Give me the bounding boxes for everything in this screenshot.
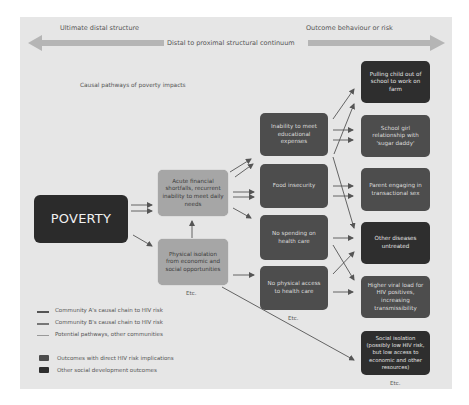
acute-financial-label: Acute financial shortfalls, recurrent in…	[162, 178, 224, 208]
physical-isolation-box: Physical isolation from economic and soc…	[158, 239, 228, 285]
outcome-transactional-sex-box: Parent engaging in transactional sex	[361, 168, 430, 211]
acute-financial-box: Acute financial shortfalls, recurrent in…	[158, 170, 228, 216]
legend-line-other-communities	[37, 335, 49, 336]
outcome-transactional-sex-label: Parent engaging in transactional sex	[365, 182, 426, 197]
legend-line-community-b	[37, 323, 49, 325]
legend-label-community-b: Community B's causal chain to HIV risk	[55, 319, 163, 325]
educational-expenses-label: Inability to meet educational expenses	[264, 123, 324, 146]
legend-swatch-other	[39, 367, 49, 373]
legend-line-community-a	[37, 311, 49, 313]
outcomes-etc-label: Etc.	[390, 380, 400, 386]
no-health-access-box: No physical access to health care	[260, 266, 328, 310]
outcome-social-isolation-label: Social isolation (possibly low HIV risk,…	[365, 335, 426, 371]
poverty-label: POVERTY	[51, 210, 111, 228]
continuum-label: Distal to proximal structural continuum	[167, 39, 295, 47]
no-health-access-label: No physical access to health care	[264, 280, 324, 295]
outcome-child-labour-label: Pulling child out of school to work on f…	[365, 71, 426, 94]
no-health-spending-label: No spending on health care	[264, 230, 324, 245]
outcome-child-labour-box: Pulling child out of school to work on f…	[361, 61, 430, 103]
educational-expenses-box: Inability to meet educational expenses	[260, 113, 328, 156]
physical-isolation-label: Physical isolation from economic and soc…	[162, 251, 224, 274]
legend-swatch-hiv	[39, 355, 49, 361]
intermediate-etc-label: Etc.	[288, 315, 298, 321]
outcome-sugar-daddy-box: School girl relationship with 'sugar dad…	[361, 115, 430, 157]
diagram-caption: Causal pathways of poverty impacts	[80, 82, 186, 88]
legend-label-other: Other social development outcomes	[57, 367, 157, 373]
outcome-sugar-daddy-label: School girl relationship with 'sugar dad…	[365, 125, 426, 148]
legend-label-hiv: Outcomes with direct HIV risk implicatio…	[57, 355, 174, 361]
legend-label-community-a: Community A's causal chain to HIV risk	[55, 307, 163, 313]
outcome-viral-load-box: Higher viral load for HIV positives, inc…	[361, 276, 430, 318]
left-distal-label: Ultimate distal structure	[60, 24, 139, 32]
food-insecurity-box: Food insecurity	[260, 164, 328, 208]
food-insecurity-label: Food insecurity	[273, 182, 316, 190]
right-outcome-label: Outcome behaviour or risk	[306, 24, 393, 32]
poverty-box: POVERTY	[34, 195, 128, 243]
outcome-social-isolation-box: Social isolation (possibly low HIV risk,…	[361, 331, 430, 375]
structural-etc-label: Etc.	[186, 290, 196, 296]
legend-label-other-communities: Potential pathways, other communities	[55, 331, 163, 337]
outcome-viral-load-label: Higher viral load for HIV positives, inc…	[365, 282, 426, 312]
no-health-spending-box: No spending on health care	[260, 215, 328, 260]
outcome-diseases-untreated-label: Other diseases untreated	[365, 235, 426, 250]
outcome-diseases-untreated-box: Other diseases untreated	[361, 222, 430, 264]
